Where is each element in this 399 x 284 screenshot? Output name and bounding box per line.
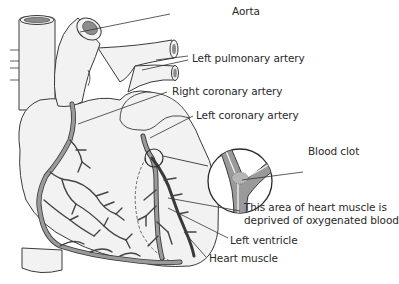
- label-deprived-area-line2: deprived of oxygenated blood: [244, 214, 399, 227]
- label-heart-muscle: Heart muscle: [209, 252, 278, 265]
- label-deprived-area-line1: This area of heart muscle is: [244, 201, 387, 214]
- label-aorta: Aorta: [232, 5, 260, 18]
- label-left-pulmonary-artery: Left pulmonary artery: [192, 52, 305, 65]
- label-right-coronary-artery: Right coronary artery: [172, 85, 282, 98]
- vena-cava: [10, 16, 55, 111]
- pulmonary-arteries: [98, 40, 179, 92]
- aorta-vessel: [54, 13, 105, 106]
- label-left-coronary-artery: Left coronary artery: [196, 109, 299, 122]
- label-left-ventricle: Left ventricle: [230, 234, 298, 247]
- inferior-vena-cava: [22, 248, 62, 273]
- label-blood-clot: Blood clot: [308, 145, 359, 158]
